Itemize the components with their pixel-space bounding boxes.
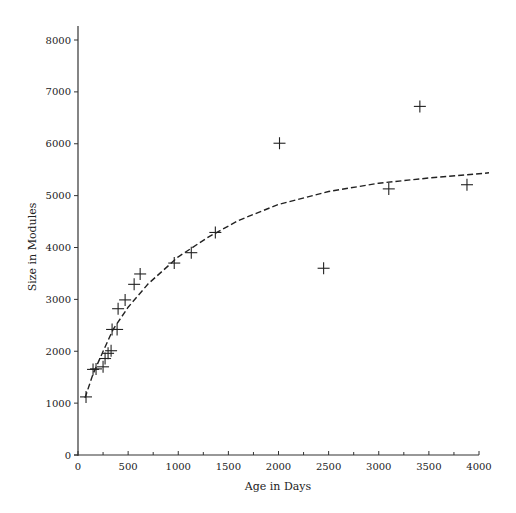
data-point-marker (128, 278, 140, 290)
y-axis-label: Size in Modules (26, 202, 39, 291)
scatter-chart: 010002000300040005000600070008000 050010… (0, 0, 516, 513)
x-tick-label: 1000 (166, 461, 191, 472)
data-point-marker (274, 137, 286, 149)
data-point-marker (102, 347, 114, 359)
data-point-marker (112, 303, 124, 315)
data-point-marker (414, 100, 426, 112)
data-point-marker (318, 262, 330, 274)
x-tick-label: 0 (75, 461, 81, 472)
fitted-curve (85, 173, 489, 398)
x-tick-label: 3500 (416, 461, 441, 472)
data-point-marker (461, 179, 473, 191)
x-tick-label: 3000 (366, 461, 391, 472)
x-tick-label: 4000 (466, 461, 491, 472)
y-tick-label: 1000 (46, 398, 71, 409)
y-tick-label: 0 (65, 450, 71, 461)
y-tick-label: 4000 (46, 242, 71, 253)
x-axis: 05001000150020002500300035004000 (74, 451, 492, 472)
x-tick-label: 2500 (316, 461, 341, 472)
data-point-marker (105, 345, 117, 357)
y-tick-label: 5000 (46, 190, 71, 201)
y-tick-label: 7000 (46, 86, 71, 97)
y-tick-label: 8000 (46, 35, 71, 46)
data-point-marker (185, 247, 197, 259)
y-axis: 010002000300040005000600070008000 (46, 26, 78, 461)
x-tick-label: 500 (119, 461, 138, 472)
data-point-marker (97, 361, 109, 373)
y-tick-label: 2000 (46, 346, 71, 357)
x-tick-label: 1500 (216, 461, 241, 472)
data-point-marker (99, 353, 111, 365)
data-point-marker (134, 268, 146, 280)
x-axis-label: Age in Days (244, 480, 312, 493)
y-tick-label: 6000 (46, 138, 71, 149)
data-point-marker (168, 257, 180, 269)
y-tick-label: 3000 (46, 294, 71, 305)
data-point-marker (383, 183, 395, 195)
x-tick-label: 2000 (266, 461, 291, 472)
plot-area (80, 100, 489, 403)
data-point-marker (119, 294, 131, 306)
